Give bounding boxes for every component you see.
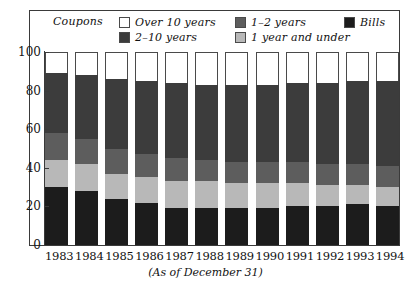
x-axis-label-1984: 1984 [75, 249, 98, 263]
bar-segment-1994-bills [376, 206, 399, 245]
legend-swatch-1-2-years [235, 17, 246, 28]
bar-segment-1990-1-2-years [256, 162, 279, 183]
legend-swatch-bills [344, 17, 355, 28]
bar-segment-1985-over-10-years [105, 52, 128, 79]
bar-segment-1991-2-10-years [286, 83, 309, 162]
bar-segment-1994-over-10-years [376, 52, 399, 81]
bar-segment-1988-1-2-years [195, 160, 218, 181]
y-axis-tick-label: 100 [9, 45, 41, 59]
x-axis-label-1986: 1986 [135, 249, 158, 263]
x-axis-label-1992: 1992 [316, 249, 339, 263]
bar-segment-1983-1-2-years [45, 133, 68, 160]
y-axis-tick-mark [45, 52, 49, 53]
y-axis-tick-label: 80 [9, 84, 41, 98]
x-axis-label-1987: 1987 [165, 249, 188, 263]
legend-item-over-10-years: Over 10 years [119, 16, 216, 29]
bar-1992[interactable] [316, 52, 339, 245]
bar-segment-1985-2-10-years [105, 79, 128, 148]
bar-segment-1984-1-year-and-under [75, 164, 98, 191]
bar-1985[interactable] [105, 52, 128, 245]
x-axis-labels: 1983198419851986198719881989199019911992… [45, 249, 399, 263]
bar-segment-1989-bills [225, 208, 248, 245]
bar-1984[interactable] [75, 52, 98, 245]
legend-label-2-10-years: 2–10 years [135, 31, 197, 44]
bar-segment-1990-bills [256, 208, 279, 245]
chart-legend: Coupons Over 10 years 1–2 years Bills 2–… [30, 11, 399, 44]
bar-segment-1993-over-10-years [346, 52, 369, 81]
bar-segment-1989-1-2-years [225, 162, 248, 183]
bar-1988[interactable] [195, 52, 218, 245]
bar-1989[interactable] [225, 52, 248, 245]
bar-segment-1990-1-year-and-under [256, 183, 279, 208]
bar-segment-1987-bills [165, 208, 188, 245]
legend-item-1-year-and-under: 1 year and under [235, 31, 350, 44]
bar-segment-1989-2-10-years [225, 85, 248, 162]
legend-swatch-over-10-years [119, 17, 130, 28]
y-axis-ticks: 100806040200 [0, 0, 41, 286]
legend-item-1-2-years: 1–2 years [235, 16, 306, 29]
y-axis-tick-label: 20 [9, 199, 41, 213]
bar-1993[interactable] [346, 52, 369, 245]
legend-item-bills: Bills [344, 16, 385, 29]
legend-swatch-1-year-and-under [235, 32, 246, 43]
x-axis-label-1993: 1993 [346, 249, 369, 263]
bar-1990[interactable] [256, 52, 279, 245]
bar-segment-1986-bills [135, 203, 158, 245]
bar-segment-1984-bills [75, 191, 98, 245]
x-axis-label-1988: 1988 [195, 249, 218, 263]
y-axis-tick-mark [45, 206, 49, 207]
bar-segment-1992-1-2-years [316, 164, 339, 185]
bar-segment-1988-bills [195, 208, 218, 245]
x-axis-label-1985: 1985 [105, 249, 128, 263]
bar-segment-1983-1-year-and-under [45, 160, 68, 187]
bar-1994[interactable] [376, 52, 399, 245]
bar-segment-1988-2-10-years [195, 85, 218, 160]
x-axis-label-1990: 1990 [256, 249, 279, 263]
bar-segment-1987-1-year-and-under [165, 181, 188, 208]
bar-segment-1987-2-10-years [165, 83, 188, 158]
x-axis-label-1983: 1983 [45, 249, 68, 263]
bar-1991[interactable] [286, 52, 309, 245]
bar-segment-1993-2-10-years [346, 81, 369, 164]
bar-1987[interactable] [165, 52, 188, 245]
legend-label-1-2-years: 1–2 years [251, 16, 306, 29]
bar-segment-1986-1-year-and-under [135, 177, 158, 202]
legend-item-2-10-years: 2–10 years [119, 31, 197, 44]
legend-label-bills: Bills [360, 16, 385, 29]
bar-segment-1983-over-10-years [45, 52, 68, 73]
legend-swatch-2-10-years [119, 32, 130, 43]
legend-label-1-year-and-under: 1 year and under [251, 31, 350, 44]
bar-segment-1989-1-year-and-under [225, 183, 248, 208]
y-axis-tick-mark [45, 91, 49, 92]
legend-label-over-10-years: Over 10 years [135, 16, 216, 29]
bar-segment-1986-over-10-years [135, 52, 158, 81]
bar-segment-1985-bills [105, 199, 128, 245]
bar-1986[interactable] [135, 52, 158, 245]
bar-segment-1990-2-10-years [256, 85, 279, 162]
stacked-bar-chart: Coupons Over 10 years 1–2 years Bills 2–… [0, 0, 411, 286]
y-axis-tick-mark [45, 245, 49, 246]
chart-caption: (As of December 31) [0, 266, 411, 279]
bar-segment-1991-1-year-and-under [286, 183, 309, 206]
y-axis-tick-label: 0 [9, 238, 41, 252]
bar-1983[interactable] [45, 52, 68, 245]
y-axis-tick-label: 60 [9, 122, 41, 136]
bar-segment-1992-bills [316, 206, 339, 245]
bar-segment-1983-bills [45, 187, 68, 245]
y-axis-tick-mark [45, 129, 49, 130]
bar-segment-1989-over-10-years [225, 52, 248, 85]
bars-container [45, 52, 399, 245]
y-axis-tick-label: 40 [9, 161, 41, 175]
bar-segment-1994-2-10-years [376, 81, 399, 166]
bar-segment-1987-over-10-years [165, 52, 188, 83]
y-axis-tick-mark [45, 168, 49, 169]
bar-segment-1992-2-10-years [316, 83, 339, 164]
bar-segment-1984-1-2-years [75, 139, 98, 164]
bar-segment-1991-1-2-years [286, 162, 309, 183]
bar-segment-1994-1-2-years [376, 166, 399, 187]
bar-segment-1990-over-10-years [256, 52, 279, 85]
bar-segment-1991-bills [286, 206, 309, 245]
bar-segment-1986-1-2-years [135, 154, 158, 177]
bar-segment-1992-over-10-years [316, 52, 339, 83]
bar-segment-1984-over-10-years [75, 52, 98, 75]
